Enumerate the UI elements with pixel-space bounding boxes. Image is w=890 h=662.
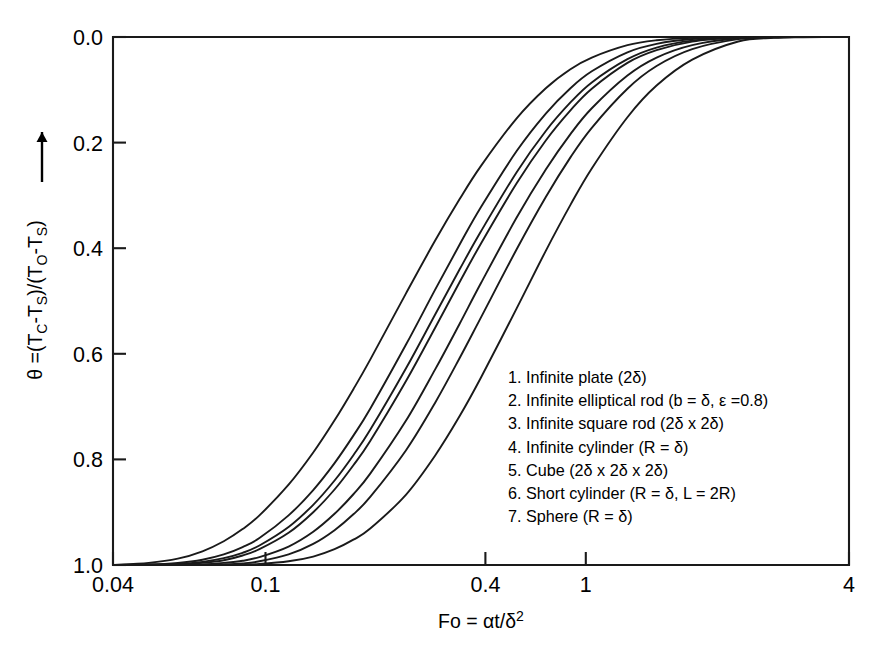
chart-background: [0, 0, 890, 662]
y-axis-title-sub-c: C: [34, 324, 50, 334]
legend-item: 4. Infinite cylinder (R = δ): [508, 438, 688, 456]
legend-item: 7. Sphere (R = δ): [508, 507, 633, 525]
y-axis-title-mid2: -T: [24, 236, 46, 254]
y-axis-title-close2: ): [24, 220, 46, 227]
legend-item: 2. Infinite elliptical rod (b = δ, ε =0.…: [508, 391, 768, 409]
transient-conduction-chart: 0.0 0.2 0.4 0.6 0.8 1.0 0.04 0.1 0.4 1 4…: [0, 0, 890, 662]
x-axis-title-main: Fo = αt/δ: [438, 610, 516, 632]
y-axis-title-mid: -T: [24, 305, 46, 323]
legend-item: 3. Infinite square rod (2δ x 2δ): [508, 414, 724, 432]
y-tick-label: 0.8: [73, 448, 103, 472]
chart-figure: 0.0 0.2 0.4 0.6 0.8 1.0 0.04 0.1 0.4 1 4…: [0, 0, 890, 662]
x-axis-title: Fo = αt/δ2: [438, 608, 524, 632]
x-tick-label: 4: [843, 573, 855, 597]
legend-item: 5. Cube (2δ x 2δ x 2δ): [508, 461, 668, 479]
x-axis-title-exponent: 2: [516, 608, 524, 624]
x-tick-label: 1: [580, 573, 592, 597]
y-axis-title-theta: θ =(T: [24, 334, 46, 380]
y-tick-label: 0.6: [73, 343, 103, 367]
legend-item: 1. Infinite plate (2δ): [508, 368, 647, 386]
x-tick-label: 0.4: [470, 573, 500, 597]
y-tick-label: 0.0: [73, 26, 103, 50]
y-tick-label: 0.4: [73, 237, 103, 261]
y-axis-title-sub-o: O: [34, 254, 50, 265]
x-tick-label: 0.04: [92, 573, 134, 597]
y-tick-label: 0.2: [73, 132, 103, 156]
x-tick-label: 0.1: [251, 573, 281, 597]
legend-item: 6. Short cylinder (R = δ, L = 2R): [508, 484, 736, 502]
svg-text:Fo = αt/δ2: Fo = αt/δ2: [438, 608, 524, 632]
y-axis-title-sub-s1: S: [34, 296, 50, 305]
y-axis-title-sub-s2: S: [34, 227, 50, 236]
y-axis-title-close1: )/(T: [24, 265, 46, 295]
